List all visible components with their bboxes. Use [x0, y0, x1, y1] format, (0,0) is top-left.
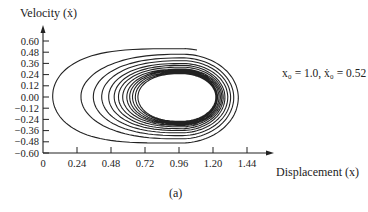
x-tick-label: 1.44	[238, 158, 257, 169]
y-tick-label: 0.00	[21, 92, 39, 103]
y-tick-label: −0.36	[15, 125, 39, 136]
y-axis-ticks: 0.600.480.360.240.120.00−0.12−0.24−0.36−…	[15, 36, 49, 159]
axes	[41, 25, 275, 156]
x-tick-label: 0.48	[102, 158, 120, 169]
y-tick-label: 0.48	[21, 47, 39, 58]
x-tick-label: 0.24	[68, 158, 87, 169]
chart-canvas: 0.600.480.360.240.120.00−0.12−0.24−0.36−…	[0, 0, 368, 212]
y-tick-label: −0.12	[15, 103, 39, 114]
y-tick-label: −0.48	[15, 136, 39, 147]
phase-trajectory-spiral	[53, 49, 239, 144]
x-tick-label: 1.20	[204, 158, 222, 169]
x-tick-label: 0.96	[170, 158, 188, 169]
y-tick-label: −0.24	[15, 114, 40, 125]
x-tick-label: 0	[40, 158, 45, 169]
y-tick-label: 0.24	[21, 69, 40, 80]
y-tick-label: 0.60	[21, 36, 39, 47]
y-tick-label: −0.60	[15, 148, 39, 159]
x-axis-arrow-icon	[266, 151, 274, 156]
figure-caption: (a)	[169, 186, 182, 200]
y-axis-arrow-icon	[41, 25, 46, 33]
y-tick-label: 0.36	[21, 58, 39, 69]
phase-plot-figure: 0.600.480.360.240.120.00−0.12−0.24−0.36−…	[0, 0, 368, 212]
x-axis-ticks: 00.240.480.720.961.201.44	[40, 147, 257, 169]
y-axis-title: Velocity (ẋ)	[20, 6, 77, 20]
initial-condition-annotation: x₀ = 1.0, ẋ₀ = 0.52	[282, 67, 366, 80]
x-tick-label: 0.72	[136, 158, 154, 169]
y-tick-label: 0.12	[21, 80, 39, 91]
x-axis-title: Displacement (x)	[276, 165, 359, 179]
